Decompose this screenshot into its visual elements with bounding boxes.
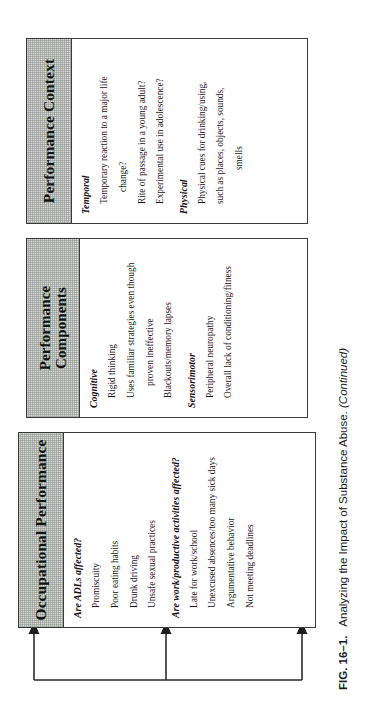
list-item: Late for work/school bbox=[190, 440, 199, 608]
box-header-performance-components: Performance Components bbox=[27, 239, 80, 417]
box-title-occupational-performance: Occupational Performance bbox=[33, 435, 50, 624]
group-label-sensorimotor: Sensorimotor bbox=[187, 246, 197, 408]
list-item: change? bbox=[119, 46, 128, 192]
list-item: smells bbox=[235, 46, 244, 170]
group-label-temporal: Temporal bbox=[81, 46, 91, 214]
scanned-page: Occupational Performance Are ADLs affect… bbox=[0, 0, 389, 718]
figure-diagram: Occupational Performance Are ADLs affect… bbox=[14, 38, 319, 690]
box-occupational-performance: Occupational Performance Are ADLs affect… bbox=[18, 432, 316, 628]
box-title-performance-components: Performance Components bbox=[37, 282, 69, 374]
list-item: such as places, objects, sounds, bbox=[216, 46, 225, 204]
list-item: Rite of passage in a young adult? bbox=[138, 46, 147, 204]
list-item: Unexcused absences/too many sick days bbox=[208, 440, 217, 608]
figure-caption-text: Analyzing the Impact of Substance Abuse. bbox=[337, 411, 349, 626]
box-header-performance-context: Performance Context bbox=[27, 39, 72, 223]
box-performance-components: Performance Components Cognitive Rigid t… bbox=[26, 238, 308, 418]
box-title-performance-context: Performance Context bbox=[41, 55, 58, 207]
group-label-cognitive: Cognitive bbox=[89, 246, 99, 408]
figure-caption-continued: (Continued) bbox=[337, 348, 349, 408]
box-body-performance-context: Temporal Temporary reaction to a major l… bbox=[72, 39, 307, 223]
box-body-performance-components: Cognitive Rigid thinking Uses familiar s… bbox=[80, 239, 307, 417]
box-title-line-2: Components bbox=[53, 286, 69, 370]
box-body-occupational-performance: Are ADLs affected? Promiscuity Poor eati… bbox=[64, 433, 315, 627]
figure-number: FIG. 16–1. bbox=[337, 636, 349, 690]
figure-caption: FIG. 16–1.Analyzing the Impact of Substa… bbox=[337, 50, 349, 690]
list-item: Not meeting deadlines bbox=[246, 440, 255, 608]
box-performance-context: Performance Context Temporal Temporary r… bbox=[26, 38, 308, 224]
group-label-work-productive: Are work/productive activities affected? bbox=[171, 440, 181, 618]
group-label-physical: Physical bbox=[179, 46, 189, 214]
list-item: Unsafe sexual practices bbox=[148, 440, 157, 608]
list-item: Drunk driving bbox=[130, 440, 139, 608]
list-item: Blackouts/memory lapses bbox=[164, 246, 173, 398]
group-label-adls: Are ADLs affected? bbox=[73, 440, 83, 618]
list-item: Peripheral neuropathy bbox=[206, 246, 215, 398]
list-item: Overall lack of conditioning/fitness bbox=[224, 246, 233, 398]
box-title-line-1: Performance bbox=[37, 286, 53, 370]
box-header-occupational-performance: Occupational Performance bbox=[19, 433, 64, 627]
list-item: Argumentative behavior bbox=[227, 440, 236, 608]
list-item: Experimental use in adolescence? bbox=[156, 46, 165, 204]
list-item: proven ineffective bbox=[146, 246, 155, 386]
list-item: Rigid thinking bbox=[108, 246, 117, 398]
connector-arrows bbox=[14, 620, 319, 690]
list-item: Uses familiar strategies even though bbox=[127, 246, 136, 398]
list-item: Promiscuity bbox=[92, 440, 101, 608]
list-item: Poor eating habits bbox=[111, 440, 120, 608]
list-item: Physical cues for drinking/using, bbox=[198, 46, 207, 204]
list-item: Temporary reaction to a major life bbox=[100, 46, 109, 204]
